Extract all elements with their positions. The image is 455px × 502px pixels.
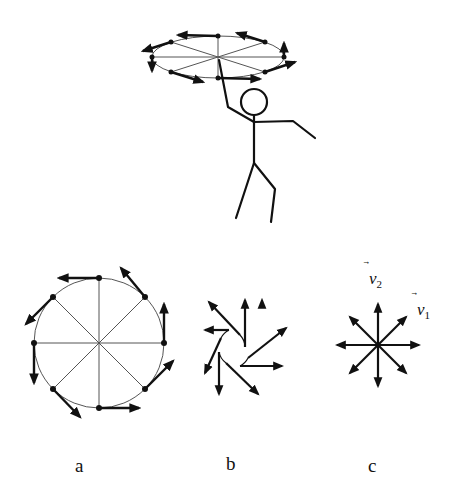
- extended-arm: [254, 121, 315, 138]
- stick-figure: [219, 60, 315, 222]
- panel-b-velocity-arrows: [205, 300, 286, 394]
- vector-label-v2: ⃗v2: [369, 269, 382, 290]
- panel-label-a: a: [75, 455, 83, 477]
- panel-label-b: b: [226, 453, 236, 475]
- vector-label-v1: ⃗v1: [417, 300, 430, 321]
- figure-canvas: [0, 0, 455, 502]
- panel-b-diagram: [205, 300, 286, 394]
- head: [241, 89, 267, 115]
- spinning-disc: [143, 33, 295, 82]
- panel-a-diagram: [26, 268, 173, 417]
- right-leg: [254, 163, 275, 222]
- panel-label-c: c: [368, 455, 376, 477]
- left-leg: [236, 163, 254, 218]
- panel-c-diagram: [337, 304, 419, 386]
